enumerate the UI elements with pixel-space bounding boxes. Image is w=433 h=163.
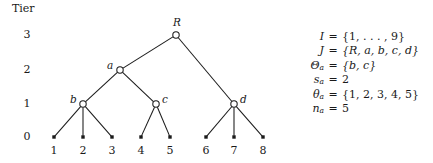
tree-node-b[interactable] [80, 101, 86, 107]
node-layer [52, 32, 264, 139]
tree-edge-b-3 [85, 107, 111, 136]
node-label-d: d [240, 93, 247, 105]
tree-leaf-node-1[interactable] [52, 135, 55, 138]
leaf-label-2: 2 [75, 144, 91, 157]
definition-symbol-base: Θ [310, 59, 319, 72]
tree-edge-a-c [123, 72, 154, 101]
tree-leaf-node-4[interactable] [139, 135, 142, 138]
tree-node-d[interactable] [231, 101, 237, 107]
leaf-label-7: 7 [226, 144, 242, 157]
equals-sign: = [324, 30, 342, 44]
tree-leaf-node-7[interactable] [232, 135, 235, 138]
tree-edge-d-6 [207, 107, 232, 136]
equals-sign: = [324, 88, 342, 102]
node-label-b: b [70, 93, 77, 105]
edge-layer [55, 37, 262, 136]
tree-leaf-node-8[interactable] [261, 135, 264, 138]
node-label-R: R [173, 16, 181, 28]
definition-row: na=5 [288, 102, 433, 116]
definition-row: J={R, a, b, c, d} [288, 44, 433, 58]
tree-edge-a-b [86, 72, 118, 101]
definition-symbol-base: θ [313, 88, 320, 101]
definition-symbol: J [288, 44, 324, 58]
tree-edge-c-5 [157, 107, 169, 136]
tree-graphic [0, 0, 285, 163]
tree-edge-b-1 [55, 107, 81, 136]
node-label-a: a [107, 59, 113, 71]
tree-leaf-node-5[interactable] [168, 135, 171, 138]
leaf-label-6: 6 [198, 144, 214, 157]
definition-value: {1, . . . , 9} [342, 30, 405, 44]
definition-value: {1, 2, 3, 4, 5} [342, 88, 419, 102]
tree-edge-c-4 [141, 107, 154, 136]
tree-node-R[interactable] [173, 32, 179, 38]
definition-row: θa={1, 2, 3, 4, 5} [288, 88, 433, 102]
definition-value: 5 [342, 102, 349, 116]
definition-value: {b, c} [342, 59, 376, 73]
tree-leaf-node-6[interactable] [204, 135, 207, 138]
definitions-list: I={1, . . . , 9}J={R, a, b, c, d}Θa={b, … [288, 30, 433, 116]
tree-node-c[interactable] [153, 101, 159, 107]
tree-edge-d-8 [236, 107, 262, 136]
equals-sign: = [324, 73, 342, 87]
tree-edge-R-d [178, 38, 231, 101]
equals-sign: = [324, 44, 342, 58]
tree-diagram: Tier 3210 Rabcd12345678 [0, 0, 285, 163]
definition-row: Θa={b, c} [288, 59, 433, 73]
leaf-label-5: 5 [162, 144, 178, 157]
tree-leaf-node-2[interactable] [81, 135, 84, 138]
leaf-label-1: 1 [46, 144, 62, 157]
node-label-c: c [162, 93, 168, 105]
tree-edge-R-a [123, 37, 173, 68]
leaf-label-4: 4 [133, 144, 149, 157]
tree-node-a[interactable] [117, 67, 123, 73]
definition-value: 2 [342, 73, 349, 87]
definition-symbol: I [288, 30, 324, 44]
equals-sign: = [324, 59, 342, 73]
equals-sign: = [324, 102, 342, 116]
definition-symbol-base: n [312, 102, 319, 115]
leaf-label-3: 3 [104, 144, 120, 157]
figure-root: Tier 3210 Rabcd12345678 I={1, . . . , 9}… [0, 0, 433, 163]
definition-symbol: na [288, 102, 324, 119]
definition-row: sa=2 [288, 73, 433, 87]
definition-row: I={1, . . . , 9} [288, 30, 433, 44]
definition-value: {R, a, b, c, d} [342, 44, 419, 58]
tree-leaf-node-3[interactable] [110, 135, 113, 138]
leaf-label-8: 8 [255, 144, 271, 157]
